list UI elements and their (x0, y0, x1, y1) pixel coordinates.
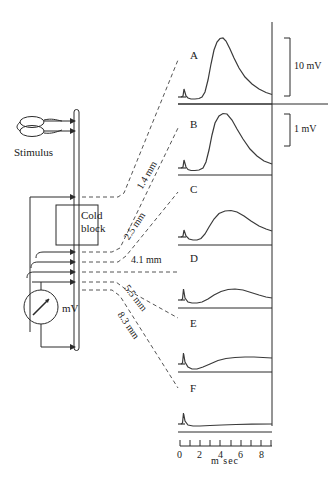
analog-meter-icon (24, 290, 58, 324)
stimulus-coil-icon (17, 117, 76, 137)
meter-unit-label: mV (62, 303, 79, 314)
trace-F-path (178, 413, 272, 426)
trace-C-path (178, 211, 272, 241)
scale-bar-10mv (284, 38, 290, 96)
trace-A-path (178, 38, 272, 99)
trace-label-E: E (190, 318, 197, 329)
distance-label-3: 4.1 mm (131, 255, 162, 265)
scale-label-10mv: 10 mV (294, 61, 322, 71)
x-tick-label-1: 2 (197, 450, 202, 460)
cold-block-label-line2: block (81, 223, 105, 234)
trace-label-D: D (190, 253, 198, 264)
scale-bar-1mv (284, 114, 290, 146)
stimulus-label: Stimulus (14, 147, 53, 158)
electrode-leads-group (27, 249, 76, 285)
x-axis-title: m sec (211, 456, 239, 466)
trace-label-A: A (190, 50, 198, 61)
trace-E-path (178, 353, 272, 369)
trace-D-path (178, 289, 272, 303)
trace-label-C: C (190, 184, 197, 195)
trace-label-F: F (190, 383, 196, 394)
scale-label-1mv: 1 mV (294, 124, 317, 134)
trace-label-B: B (190, 119, 197, 130)
meter-wiring (30, 282, 76, 350)
x-tick-label-4: 8 (259, 450, 264, 460)
figure-root: Stimulus Cold block mV 1.4 mm 2.5 mm 4.1… (0, 0, 328, 488)
x-axis (180, 440, 272, 446)
x-tick-label-0: 0 (177, 450, 182, 460)
cold-block-label-line1: Cold (81, 210, 102, 221)
nerve-fiber-icon (74, 110, 79, 351)
